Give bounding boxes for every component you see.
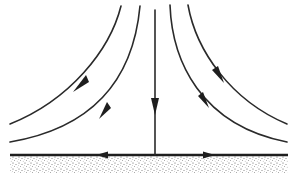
streamline-right-inner <box>170 5 287 142</box>
arrow-down-left-icon <box>99 102 111 119</box>
streamline-left-outer <box>10 6 121 124</box>
arrow-down-right-icon <box>212 66 224 83</box>
streamline-left-inner <box>10 6 140 142</box>
stagnation-flow-diagram <box>0 0 297 180</box>
ground-surface <box>10 155 288 173</box>
streamline-center <box>151 10 159 155</box>
streamline-right-outer <box>188 5 287 124</box>
arrow-down-icon <box>151 98 159 115</box>
arrow-down-left-icon <box>73 75 89 92</box>
